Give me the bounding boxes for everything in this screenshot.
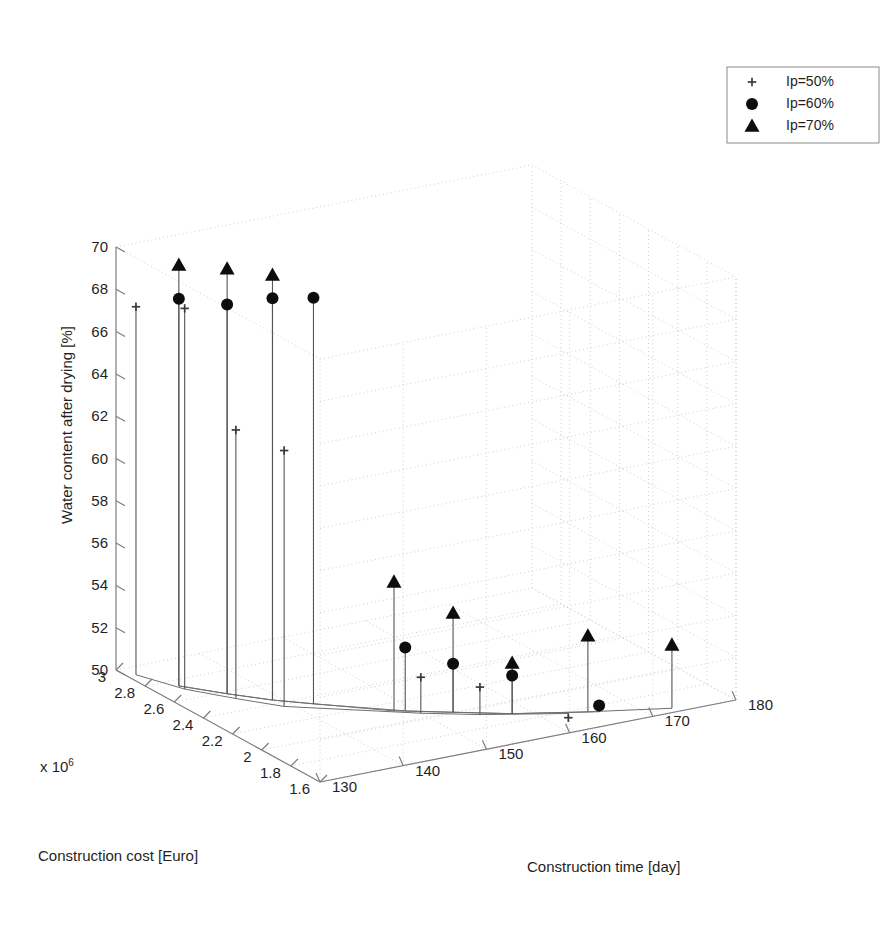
y-tick-label: 130 xyxy=(332,778,357,795)
x-tick-label: 2.6 xyxy=(143,700,164,717)
x-axis-exponent-power: 6 xyxy=(68,757,74,768)
x-tick-label: 2 xyxy=(243,748,251,765)
z-tick-label: 52 xyxy=(91,619,108,636)
circle-marker xyxy=(593,699,605,711)
circle-marker xyxy=(399,641,411,653)
x-axis-label: Construction cost [Euro] xyxy=(38,847,198,864)
y-tick-label: 160 xyxy=(582,729,607,746)
z-tick-label: 70 xyxy=(91,238,108,255)
z-axis-label: Water content after drying [%] xyxy=(58,326,75,524)
x-tick-label: 1.6 xyxy=(289,780,310,797)
circle-marker xyxy=(173,293,185,305)
figure-canvas: 505254565860626466687032.82.62.42.221.81… xyxy=(0,0,888,943)
z-tick-label: 62 xyxy=(91,407,108,424)
x-axis-exponent-base: x 10 xyxy=(40,758,68,775)
circle-marker xyxy=(307,292,319,304)
circle-marker xyxy=(447,658,459,670)
y-tick-label: 170 xyxy=(665,712,690,729)
y-axis-label: Construction time [day] xyxy=(527,858,680,875)
circle-marker xyxy=(266,292,278,304)
y-tick-label: 180 xyxy=(748,696,773,713)
z-tick-label: 58 xyxy=(91,492,108,509)
y-tick-label: 150 xyxy=(498,745,523,762)
x-tick-label: 2.4 xyxy=(173,716,194,733)
circle-marker xyxy=(746,98,758,110)
z-tick-label: 66 xyxy=(91,323,108,340)
x-tick-label: 2.2 xyxy=(202,732,223,749)
legend-label: Ip=70% xyxy=(786,117,834,133)
circle-marker xyxy=(221,299,233,311)
z-tick-label: 60 xyxy=(91,450,108,467)
z-tick-label: 56 xyxy=(91,534,108,551)
z-tick-label: 64 xyxy=(91,365,108,382)
x-tick-label: 3 xyxy=(98,668,106,685)
chart-3d-stem-plot: 505254565860626466687032.82.62.42.221.81… xyxy=(0,0,888,943)
z-tick-label: 68 xyxy=(91,280,108,297)
x-tick-label: 1.8 xyxy=(260,764,281,781)
y-tick-label: 140 xyxy=(415,762,440,779)
z-tick-label: 54 xyxy=(91,576,108,593)
legend-label: Ip=50% xyxy=(786,73,834,89)
circle-marker xyxy=(506,670,518,682)
legend[interactable]: Ip=50%Ip=60%Ip=70% xyxy=(727,67,879,143)
x-tick-label: 2.8 xyxy=(114,684,135,701)
legend-label: Ip=60% xyxy=(786,95,834,111)
